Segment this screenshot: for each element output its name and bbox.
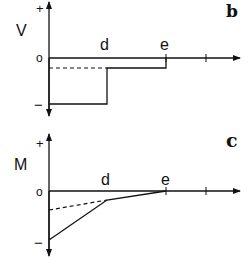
moment-diagram: + M o − d e c (14, 129, 240, 256)
axis-label-v: V (16, 22, 27, 39)
zero-label: o (36, 185, 43, 199)
zero-label: o (36, 51, 43, 65)
point-d-label: d (100, 36, 109, 53)
shear-diagram: + V o − d e b (16, 1, 240, 116)
point-e-label: e (160, 36, 169, 53)
minus-label: − (34, 234, 43, 251)
plus-label: + (36, 1, 44, 16)
moment-curve (49, 191, 166, 240)
panel-label-b: b (226, 1, 238, 21)
shear-curve (49, 58, 166, 104)
point-d-label: d (101, 171, 110, 188)
point-e-label: e (161, 171, 170, 188)
panel-label-c: c (226, 129, 238, 151)
plus-label: + (36, 136, 44, 151)
minus-label: − (34, 96, 43, 113)
axis-label-m: M (14, 156, 27, 173)
moment-dashed (49, 200, 107, 210)
diagram-canvas: + V o − d e b + M o − d e c (0, 0, 248, 272)
